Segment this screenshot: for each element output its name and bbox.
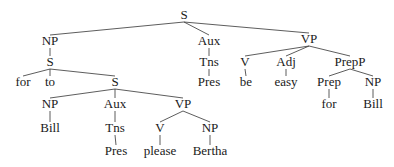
tree-node-label: V	[155, 120, 165, 135]
tree-node-label: Bill	[363, 96, 383, 111]
tree-svg: SNPSfortoSNPBillAuxTnsPresVPVpleaseNPBer…	[0, 0, 394, 167]
tree-node-label: V	[240, 54, 250, 69]
tree-node-label: Aux	[104, 96, 127, 111]
tree-node-label: be	[240, 74, 253, 89]
tree-edge	[50, 22, 184, 35]
syntax-tree-diagram: SNPSfortoSNPBillAuxTnsPresVPVpleaseNPBer…	[0, 0, 394, 167]
tree-node-label: easy	[274, 74, 298, 89]
tree-node-label: Adj	[276, 54, 296, 69]
tree-node-label: NP	[365, 74, 382, 89]
tree-node-label: to	[45, 74, 55, 89]
tree-node-label: Tns	[105, 120, 125, 135]
tree-node-label: VP	[175, 96, 192, 111]
tree-node-label: Prep	[317, 74, 341, 89]
tree-node-label: Pres	[198, 74, 220, 89]
tree-node-label: NP	[42, 33, 59, 48]
tree-node-label: VP	[301, 31, 318, 46]
tree-node-label: NP	[202, 120, 219, 135]
tree-node-label: NP	[42, 96, 59, 111]
tree-node-label: Pres	[105, 143, 127, 158]
tree-node-label: for	[321, 96, 337, 111]
tree-node-label: Tns	[199, 54, 219, 69]
tree-node-label: S	[111, 74, 118, 89]
tree-node-label: Bertha	[193, 143, 228, 158]
tree-node-label: Aux	[198, 33, 221, 48]
tree-node-label: PrepP	[334, 54, 365, 69]
tree-node-label: Bill	[40, 120, 60, 135]
tree-edge	[50, 69, 115, 76]
tree-node-label: S	[46, 54, 53, 69]
tree-node-label: S	[180, 7, 187, 22]
tree-node-label: please	[144, 143, 177, 158]
tree-node-label: for	[15, 74, 31, 89]
